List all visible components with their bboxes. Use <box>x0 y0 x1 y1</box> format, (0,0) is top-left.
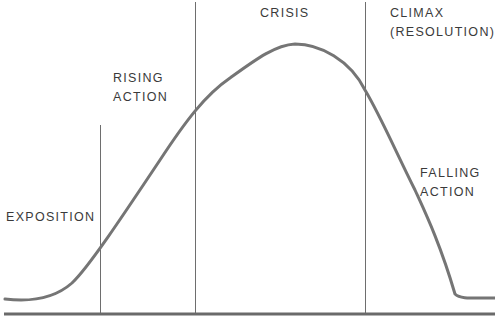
label-climax-line1: CLIMAX <box>390 4 495 23</box>
label-falling-action: FALLING ACTION <box>420 164 481 202</box>
label-rising-action-line2: ACTION <box>113 88 168 107</box>
label-climax-line2: (RESOLUTION) <box>390 23 495 42</box>
label-falling-action-line1: FALLING <box>420 164 481 183</box>
label-rising-action-line1: RISING <box>113 69 168 88</box>
label-climax: CLIMAX (RESOLUTION) <box>390 4 495 42</box>
label-falling-action-line2: ACTION <box>420 183 481 202</box>
label-crisis-line1: CRISIS <box>260 4 309 23</box>
plot-structure-diagram <box>0 0 495 325</box>
label-exposition: EXPOSITION <box>6 208 95 227</box>
label-crisis: CRISIS <box>260 4 309 23</box>
label-exposition-line1: EXPOSITION <box>6 208 95 227</box>
label-rising-action: RISING ACTION <box>113 69 168 107</box>
